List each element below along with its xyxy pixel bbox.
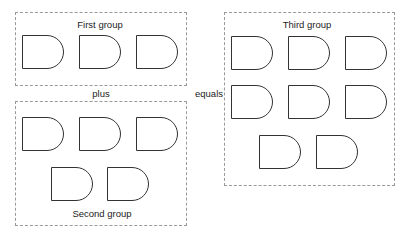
third-group-d-shape [316, 135, 358, 169]
second-group-d-shape [22, 117, 64, 151]
second-group-title: Second group [72, 208, 131, 219]
plus-label: plus [92, 88, 109, 99]
third-group-title: Third group [283, 19, 332, 30]
first-group-d-shape [22, 35, 64, 69]
first-group-d-shape [79, 35, 121, 69]
second-group-d-shape [79, 117, 121, 151]
first-group-title: First group [77, 19, 122, 30]
first-group-d-shape [136, 35, 178, 69]
second-group-d-shape [51, 167, 93, 201]
third-group-d-shape [259, 135, 301, 169]
third-group-d-shape [345, 85, 387, 119]
third-group-d-shape [288, 85, 330, 119]
equals-label: equals [195, 88, 223, 99]
second-group-d-shape [136, 117, 178, 151]
second-group-d-shape [107, 167, 149, 201]
third-group-d-shape [345, 36, 387, 70]
third-group-d-shape [288, 36, 330, 70]
third-group-d-shape [231, 36, 273, 70]
third-group-d-shape [231, 85, 273, 119]
